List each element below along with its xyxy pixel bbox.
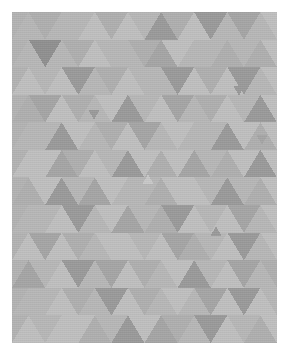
triangle-mosaic xyxy=(12,12,277,343)
mosaic-frame xyxy=(12,12,277,343)
artwork-canvas xyxy=(0,0,287,355)
